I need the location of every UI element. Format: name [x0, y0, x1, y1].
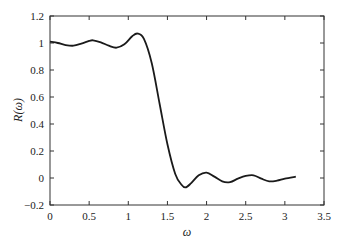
x-tick-label: 2 — [204, 210, 210, 222]
x-tick-label: 1 — [126, 210, 132, 222]
y-tick-label: 0 — [39, 172, 45, 184]
x-tick-label: 0.5 — [82, 210, 96, 222]
x-tick-label: 0 — [47, 210, 53, 222]
y-tick-label: 0.4 — [30, 118, 44, 130]
y-tick-label: 0.8 — [30, 64, 44, 76]
x-axis: 00.511.522.533.5 — [47, 16, 331, 222]
x-axis-label: ω — [183, 225, 191, 239]
x-tick-label: 3 — [282, 210, 288, 222]
y-tick-label: 0.6 — [30, 91, 44, 103]
plot-border — [50, 16, 324, 205]
x-tick-label: 1.5 — [161, 210, 175, 222]
y-tick-label: 1 — [39, 37, 45, 49]
data-line — [50, 33, 296, 187]
y-axis-label: R(ω) — [11, 98, 25, 123]
y-tick-label: 0.2 — [30, 145, 44, 157]
plot-area — [50, 16, 324, 205]
y-tick-label: −0.2 — [24, 199, 44, 211]
line-chart: 00.511.522.533.5 −0.200.20.40.60.811.2 ω… — [0, 0, 344, 243]
x-tick-label: 2.5 — [239, 210, 253, 222]
x-tick-label: 3.5 — [317, 210, 331, 222]
y-tick-label: 1.2 — [30, 10, 44, 22]
